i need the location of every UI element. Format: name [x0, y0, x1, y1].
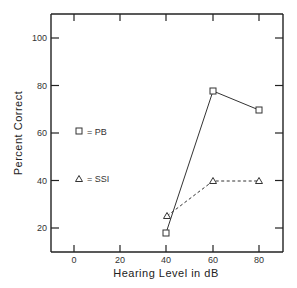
- triangle-marker-icon: [210, 178, 217, 184]
- y-tick-label: 40: [37, 176, 47, 186]
- legend-item-ssi: = SSI: [76, 174, 110, 184]
- y-axis-title: Percent Correct: [12, 91, 24, 176]
- x-tick-label: 80: [254, 255, 264, 265]
- triangle-marker-icon: [76, 176, 83, 182]
- legend-label-ssi: = SSI: [87, 174, 109, 184]
- x-tick-label: 20: [115, 255, 125, 265]
- square-marker-icon: [256, 107, 262, 113]
- chart: 0 20 40 60 80 20 40 60 80 100 Hearing Le…: [0, 0, 297, 288]
- x-axis-title: Hearing Level in dB: [113, 267, 219, 279]
- square-marker-icon: [210, 88, 216, 94]
- x-tick-label: 60: [208, 255, 218, 265]
- x-tick-label: 40: [161, 255, 171, 265]
- series-ssi: [164, 178, 263, 219]
- y-tick-label: 80: [37, 81, 47, 91]
- triangle-marker-icon: [164, 213, 171, 219]
- y-tick-labels: 20 40 60 80 100: [32, 33, 47, 233]
- square-marker-icon: [76, 128, 82, 134]
- y-tick-label: 100: [32, 33, 47, 43]
- legend-label-pb: = PB: [87, 127, 107, 137]
- x-tick-label: 0: [71, 255, 76, 265]
- square-marker-icon: [163, 230, 169, 236]
- y-axis-ticks: [51, 38, 283, 228]
- y-tick-label: 20: [37, 223, 47, 233]
- x-tick-labels: 0 20 40 60 80: [71, 255, 264, 265]
- y-tick-label: 60: [37, 128, 47, 138]
- legend: = PB = SSI: [76, 127, 110, 184]
- legend-item-pb: = PB: [76, 127, 107, 137]
- series-pb: [163, 88, 262, 236]
